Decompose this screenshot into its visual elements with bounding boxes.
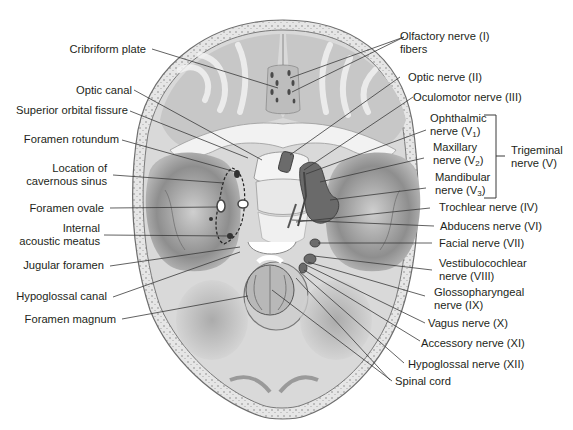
label-trigeminal-nerve: Trigeminalnerve (V) bbox=[511, 144, 563, 169]
label-hypoglossal-canal: Hypoglossal canal bbox=[16, 290, 107, 303]
label-accessory-nerve: Accessory nerve (XI) bbox=[421, 337, 525, 350]
label-foramen-ovale: Foramen ovale bbox=[29, 202, 104, 215]
label-trochlear-nerve: Trochlear nerve (IV) bbox=[439, 201, 538, 214]
label-cribriform-plate: Cribriform plate bbox=[70, 43, 146, 56]
label-abducens-nerve: Abducens nerve (VI) bbox=[440, 220, 542, 233]
label-ophthalmic-nerve: Ophthalmic nerve (V1) bbox=[430, 112, 487, 137]
label-olfactory-nerve: Olfactory nerve (I)fibers bbox=[400, 30, 490, 55]
label-internal-acoustic-meatus: Internalacoustic meatus bbox=[19, 222, 100, 247]
label-mandibular-nerve: Mandibular nerve (V3) bbox=[435, 171, 490, 196]
label-spinal-cord: Spinal cord bbox=[395, 375, 451, 388]
label-foramen-rotundum: Foramen rotundum bbox=[24, 133, 119, 146]
label-oculomotor-nerve: Oculomotor nerve (III) bbox=[413, 91, 522, 104]
label-glossopharyngeal-nerve: Glossopharyngealnerve (IX) bbox=[434, 286, 524, 311]
label-vagus-nerve: Vagus nerve (X) bbox=[428, 317, 508, 330]
label-jugular-foramen: Jugular foramen bbox=[23, 259, 104, 272]
cribriform-plate-region bbox=[266, 65, 300, 114]
label-foramen-magnum: Foramen magnum bbox=[25, 313, 116, 326]
label-optic-nerve: Optic nerve (II) bbox=[408, 71, 482, 84]
skull-base-diagram: Cribriform plate Optic canal Superior or… bbox=[0, 0, 573, 430]
label-hypoglossal-nerve: Hypoglossal nerve (XII) bbox=[408, 358, 524, 371]
label-maxillary-nerve: Maxillary nerve (V2) bbox=[433, 141, 483, 166]
label-superior-orbital-fissure: Superior orbital fissure bbox=[16, 104, 128, 117]
label-cavernous-sinus: Location ofcavernous sinus bbox=[26, 162, 107, 187]
label-vestibulocochlear-nerve: Vestibulocochlearnerve (VIII) bbox=[439, 257, 527, 282]
label-optic-canal: Optic canal bbox=[76, 84, 132, 97]
label-facial-nerve: Facial nerve (VII) bbox=[439, 237, 524, 250]
